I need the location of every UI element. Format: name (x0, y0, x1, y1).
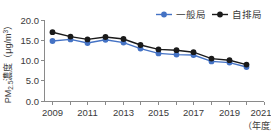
legend-marker-icon (217, 12, 223, 18)
x-tick-label: 2017 (183, 107, 204, 118)
legend-marker-icon (161, 12, 167, 18)
y-title-close: ） (3, 21, 13, 30)
y-tick-label: 0.0 (26, 96, 39, 107)
x-tick-label: 2011 (77, 107, 97, 118)
x-tick-label: 2019 (219, 107, 240, 118)
y-tick-label: 5.0 (26, 75, 39, 86)
y-tick-label: 20.0 (21, 15, 40, 26)
y-tick-label: 10.0 (21, 55, 40, 66)
x-tick-label: 2021 (250, 107, 271, 118)
y-tick-label: 15.0 (21, 35, 40, 46)
x-axis-unit-label: （年度） (243, 120, 271, 131)
y-title-subscript: 2.5 (7, 80, 14, 89)
y-title-main: PM (3, 90, 13, 104)
x-tick-label: 2009 (42, 107, 63, 118)
y-title-rest: 濃度（μg/m (2, 33, 13, 80)
x-tick-label: 2015 (148, 107, 169, 118)
x-tick-label: 2013 (113, 107, 134, 118)
pm25-trend-chart: 20.0 15.0 10.0 5.0 0.0 2009 2011 20 (0, 0, 271, 135)
legend-label-ippankyoku: 一般局 (176, 9, 206, 20)
chart-canvas: 20.0 15.0 10.0 5.0 0.0 2009 2011 20 (0, 0, 271, 135)
legend-label-jihaikyoku: 自排局 (232, 9, 262, 20)
